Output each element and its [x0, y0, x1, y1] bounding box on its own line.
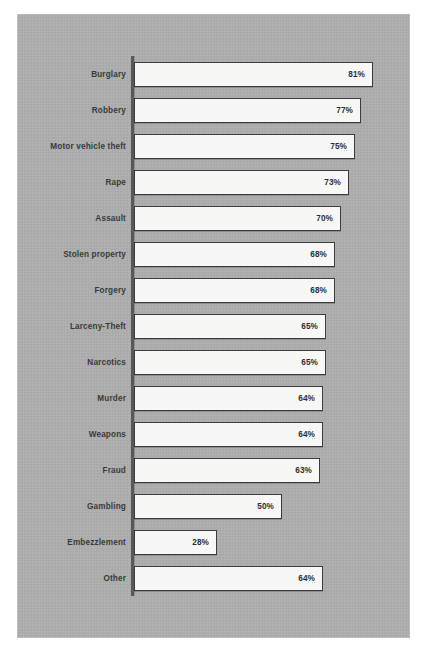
category-label: Rape: [0, 170, 126, 195]
bar-value-label: 64%: [298, 567, 315, 592]
bar-value-label: 63%: [295, 459, 312, 484]
category-label: Forgery: [0, 278, 126, 303]
category-label: Stolen property: [0, 242, 126, 267]
bar-value-label: 65%: [301, 315, 318, 340]
bar: 73%: [134, 170, 349, 195]
category-label: Weapons: [0, 422, 126, 447]
bar-value-label: 81%: [348, 63, 365, 88]
bar: 65%: [134, 350, 326, 375]
category-label: Motor vehicle theft: [0, 134, 126, 159]
bar-value-label: 28%: [192, 531, 209, 556]
bar-value-label: 77%: [336, 99, 353, 124]
category-label: Fraud: [0, 458, 126, 483]
bar-row: Embezzlement28%: [0, 530, 426, 555]
bar-row: Burglary81%: [0, 62, 426, 87]
bar-row: Forgery68%: [0, 278, 426, 303]
category-label: Burglary: [0, 62, 126, 87]
category-label: Murder: [0, 386, 126, 411]
bar-value-label: 50%: [257, 495, 274, 520]
bar-rows: Burglary81%Robbery77%Motor vehicle theft…: [0, 0, 426, 657]
bar-row: Robbery77%: [0, 98, 426, 123]
bar-value-label: 70%: [316, 207, 333, 232]
bar-row: Larceny-Theft65%: [0, 314, 426, 339]
bar: 70%: [134, 206, 341, 231]
bar-row: Other64%: [0, 566, 426, 591]
bar-row: Narcotics65%: [0, 350, 426, 375]
category-label: Assault: [0, 206, 126, 231]
bar-row: Rape73%: [0, 170, 426, 195]
bar: 63%: [134, 458, 320, 483]
bar-row: Fraud63%: [0, 458, 426, 483]
bar: 77%: [134, 98, 361, 123]
category-label: Narcotics: [0, 350, 126, 375]
category-label: Other: [0, 566, 126, 591]
bar-value-label: 68%: [310, 279, 327, 304]
bar-value-label: 68%: [310, 243, 327, 268]
bar-value-label: 75%: [330, 135, 347, 160]
chart-figure: Burglary81%Robbery77%Motor vehicle theft…: [0, 0, 426, 657]
bar: 68%: [134, 242, 335, 267]
bar: 64%: [134, 566, 323, 591]
bar: 50%: [134, 494, 282, 519]
bar: 75%: [134, 134, 355, 159]
bar-row: Murder64%: [0, 386, 426, 411]
category-label: Embezzlement: [0, 530, 126, 555]
bar-row: Motor vehicle theft75%: [0, 134, 426, 159]
bar: 65%: [134, 314, 326, 339]
bar: 68%: [134, 278, 335, 303]
category-label: Gambling: [0, 494, 126, 519]
bar: 28%: [134, 530, 217, 555]
bar-row: Weapons64%: [0, 422, 426, 447]
bar: 64%: [134, 422, 323, 447]
bar-value-label: 73%: [324, 171, 341, 196]
bar-value-label: 64%: [298, 387, 315, 412]
bar-row: Stolen property68%: [0, 242, 426, 267]
bar-row: Gambling50%: [0, 494, 426, 519]
bar-value-label: 64%: [298, 423, 315, 448]
bar: 81%: [134, 62, 373, 87]
bar-value-label: 65%: [301, 351, 318, 376]
category-label: Robbery: [0, 98, 126, 123]
bar: 64%: [134, 386, 323, 411]
category-label: Larceny-Theft: [0, 314, 126, 339]
bar-row: Assault70%: [0, 206, 426, 231]
